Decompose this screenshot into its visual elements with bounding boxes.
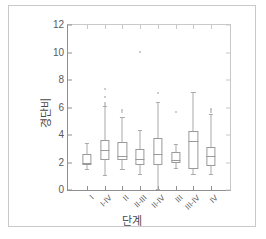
boxplot-outlier-point: [139, 51, 141, 53]
boxplot-iqr-rect: [118, 142, 127, 161]
boxplot-iqr-rect: [153, 138, 162, 165]
boxplot-box: [153, 25, 162, 190]
y-axis-tick-label: 12: [53, 20, 64, 30]
x-axis-tick-label: I-IV: [99, 194, 113, 208]
boxplot-median-line: [100, 150, 109, 151]
boxplot-outlier-point: [121, 109, 123, 111]
boxplot-series: [68, 25, 230, 190]
boxplot-whisker-upper: [140, 130, 141, 149]
boxplot-whisker-lower: [211, 166, 212, 174]
boxplot-cap-lower: [85, 169, 89, 170]
boxplot-whisker-lower: [157, 165, 158, 189]
boxplot-whisker-upper: [86, 143, 87, 154]
boxplot-iqr-rect: [189, 131, 198, 170]
y-axis-tick-label: 4: [58, 130, 64, 140]
boxplot-cap-lower: [156, 189, 160, 190]
x-axis-tick-label: I: [88, 194, 95, 201]
x-axis-tick-label: III-IV: [184, 194, 202, 212]
boxplot-median-line: [153, 154, 162, 155]
boxplot-iqr-rect: [136, 149, 145, 164]
y-axis-tick-label: 0: [58, 185, 64, 195]
boxplot-outlier-point: [104, 104, 106, 106]
boxplot-outlier-point: [157, 92, 159, 94]
boxplot-outlier-point: [104, 96, 106, 98]
boxplot-cap-upper: [85, 143, 89, 144]
boxplot-cap-upper: [191, 92, 195, 93]
boxplot-box: [171, 25, 180, 190]
boxplot-whisker-lower: [140, 165, 141, 175]
y-axis-tick-label: 8: [58, 75, 64, 85]
boxplot-box: [118, 25, 127, 190]
boxplot-outlier-point: [104, 88, 106, 90]
boxplot-cap-lower: [191, 174, 195, 175]
boxplot-median-line: [171, 160, 180, 161]
boxplot-outlier-point: [210, 108, 212, 110]
boxplot-whisker-upper: [193, 92, 194, 131]
boxplot-cap-lower: [138, 174, 142, 175]
boxplot-box: [82, 25, 91, 190]
boxplot-whisker-upper: [157, 102, 158, 138]
x-axis-tick-label: II: [122, 194, 131, 203]
boxplot-whisker-upper: [175, 144, 176, 152]
boxplot-box: [207, 25, 216, 190]
boxplot-cap-upper: [209, 114, 213, 115]
boxplot-median-line: [82, 163, 91, 164]
boxplot-box: [100, 25, 109, 190]
boxplot-whisker-lower: [122, 160, 123, 169]
boxplot-cap-lower: [102, 175, 106, 176]
boxplot-box: [189, 25, 198, 190]
x-axis-tick-label: II-IV: [151, 194, 167, 210]
boxplot-outlier-point: [104, 102, 106, 104]
boxplot-median-line: [136, 159, 145, 160]
boxplot-whisker-lower: [104, 160, 105, 174]
boxplot-cap-lower: [173, 168, 177, 169]
x-axis-tick-label: II-III: [133, 194, 148, 209]
figure-frame: 경단비 단계 024681012 II-IVIIII-IIIII-IVIIIII…: [8, 5, 256, 227]
boxplot-cap-upper: [156, 102, 160, 103]
boxplot-cap-upper: [173, 144, 177, 145]
y-axis-tick-label: 6: [58, 103, 64, 113]
boxplot-cap-upper: [138, 130, 142, 131]
y-axis-title: 경단비: [41, 98, 52, 128]
boxplot-cap-upper: [120, 117, 124, 118]
x-axis-title: 단계: [9, 216, 255, 227]
boxplot-whisker-upper: [122, 117, 123, 142]
boxplot-outlier-point: [175, 111, 177, 113]
boxplot-median-line: [118, 156, 127, 157]
plot-area: 024681012 II-IVIIII-IIIII-IVIIIIII-IVIV: [67, 24, 231, 191]
boxplot-median-line: [207, 156, 216, 157]
y-axis-tick-label: 2: [58, 158, 64, 168]
boxplot-median-line: [189, 141, 198, 142]
boxplot-cap-lower: [209, 174, 213, 175]
x-axis-tick-label: IV: [209, 194, 220, 205]
boxplot-whisker-upper: [104, 106, 105, 140]
boxplot-box: [136, 25, 145, 190]
boxplot-cap-lower: [120, 169, 124, 170]
boxplot-whisker-upper: [211, 114, 212, 146]
y-axis-tick-label: 10: [53, 48, 64, 58]
x-axis-tick-label: III: [174, 194, 184, 204]
boxplot-outlier-point: [121, 111, 123, 113]
boxplot-iqr-rect: [82, 154, 91, 165]
